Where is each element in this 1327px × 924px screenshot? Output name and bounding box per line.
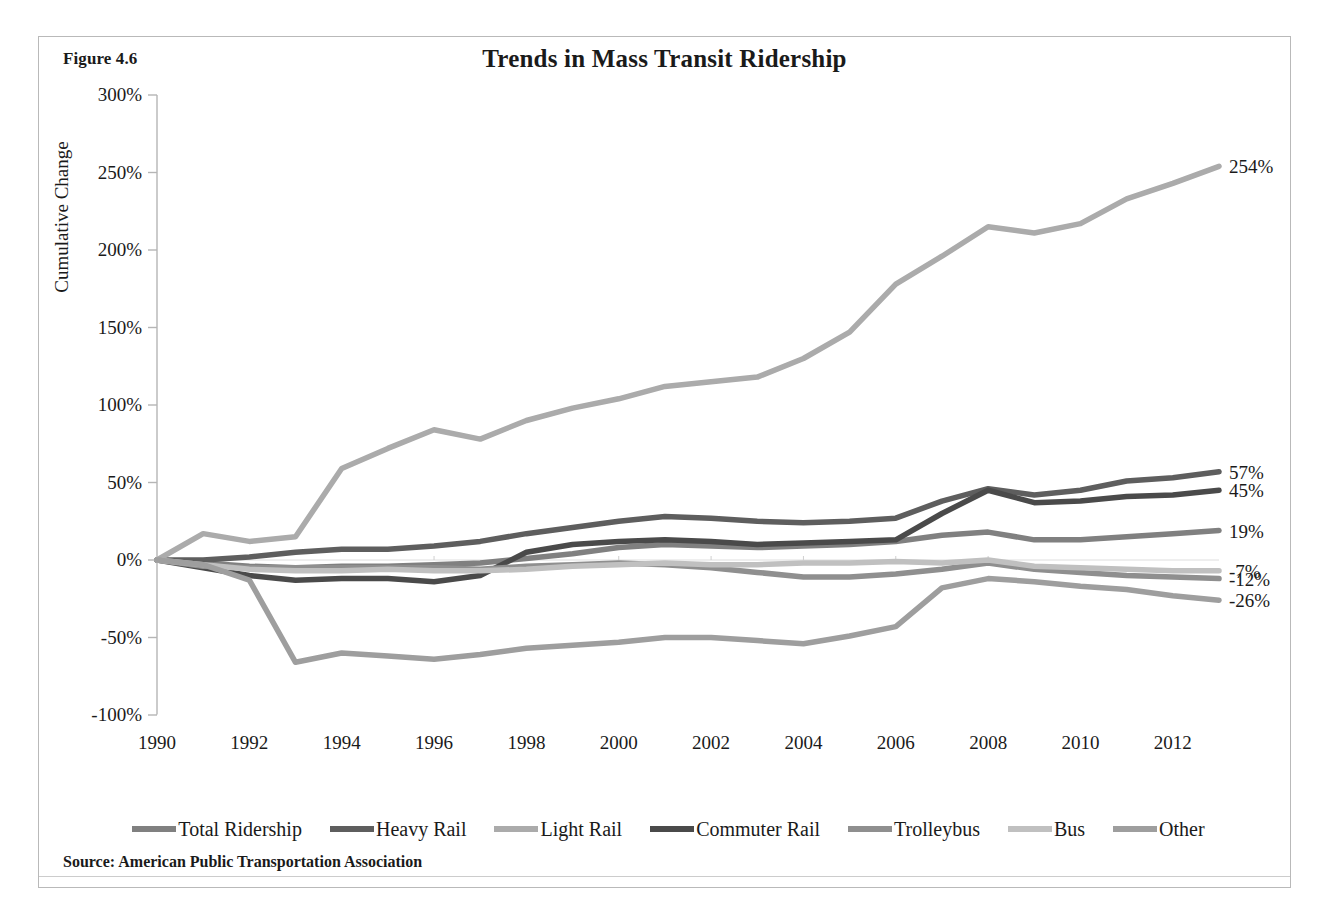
series-line-other [157,560,1219,662]
x-tick-label: 2002 [692,732,730,753]
legend-item-trolleybus[interactable]: Trolleybus [848,818,980,841]
x-tick-label: 2008 [969,732,1007,753]
legend-item-label: Light Rail [540,818,622,841]
x-tick-label: 2010 [1061,732,1099,753]
x-tick-label: 1992 [230,732,268,753]
legend-swatch-icon [848,826,892,832]
legend-item-label: Trolleybus [894,818,980,841]
end-label-other: -26% [1229,590,1270,611]
legend-item-label: Heavy Rail [376,818,467,841]
y-tick-label: 100% [98,394,143,415]
x-tick-label: 2004 [784,732,823,753]
legend-swatch-icon [330,826,374,832]
x-tick-label: 2012 [1154,732,1192,753]
y-tick-label: 50% [107,472,142,493]
legend-item-label: Bus [1054,818,1085,841]
end-label-total-ridership: 19% [1229,521,1264,542]
end-label-trolleybus: -12% [1229,569,1270,590]
legend-swatch-icon [132,826,176,832]
x-tick-label: 1990 [138,732,176,753]
legend-item-label: Commuter Rail [696,818,820,841]
x-tick-label: 2006 [877,732,915,753]
legend-item-label: Total Ridership [178,818,302,841]
end-label-light-rail: 254% [1229,156,1274,177]
x-tick-label: 1996 [415,732,453,753]
x-tick-label: 1998 [507,732,545,753]
y-tick-label: -50% [101,627,142,648]
y-tick-label: 250% [98,162,143,183]
legend-item-light-rail[interactable]: Light Rail [494,818,622,841]
y-tick-label: -100% [91,704,142,725]
legend-item-label: Other [1159,818,1205,841]
source-divider [39,876,1290,877]
legend-item-bus[interactable]: Bus [1008,818,1085,841]
legend-swatch-icon [494,826,538,832]
y-tick-label: 0% [117,549,143,570]
y-tick-label: 150% [98,317,143,338]
legend-swatch-icon [1008,826,1052,832]
legend-item-total-ridership[interactable]: Total Ridership [132,818,302,841]
legend-item-heavy-rail[interactable]: Heavy Rail [330,818,467,841]
chart-plot: 300%250%200%150%100%50%0%-50%-100%199019… [39,37,1290,817]
x-tick-label: 2000 [600,732,638,753]
legend-swatch-icon [650,826,694,832]
source-note: Source: American Public Transportation A… [63,853,422,871]
legend-item-commuter-rail[interactable]: Commuter Rail [650,818,820,841]
legend-item-other[interactable]: Other [1113,818,1205,841]
end-label-commuter-rail: 45% [1229,480,1264,501]
y-tick-label: 200% [98,239,143,260]
x-tick-label: 1994 [323,732,362,753]
y-tick-label: 300% [98,84,143,105]
legend-swatch-icon [1113,826,1157,832]
figure-frame: Figure 4.6 Trends in Mass Transit Riders… [38,36,1291,888]
chart-legend: Total RidershipHeavy RailLight RailCommu… [61,812,1276,846]
